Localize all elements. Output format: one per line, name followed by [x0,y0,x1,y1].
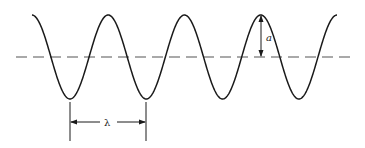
amplitude-label: a [266,32,272,43]
wave-diagram: a λ [0,0,365,148]
arrow-right-icon [139,120,146,125]
wavelength-marker: λ [70,102,146,141]
arrow-down-icon [259,50,264,57]
amplitude-marker: a [259,15,273,57]
arrow-left-icon [70,120,77,125]
wavelength-label: λ [104,117,111,128]
